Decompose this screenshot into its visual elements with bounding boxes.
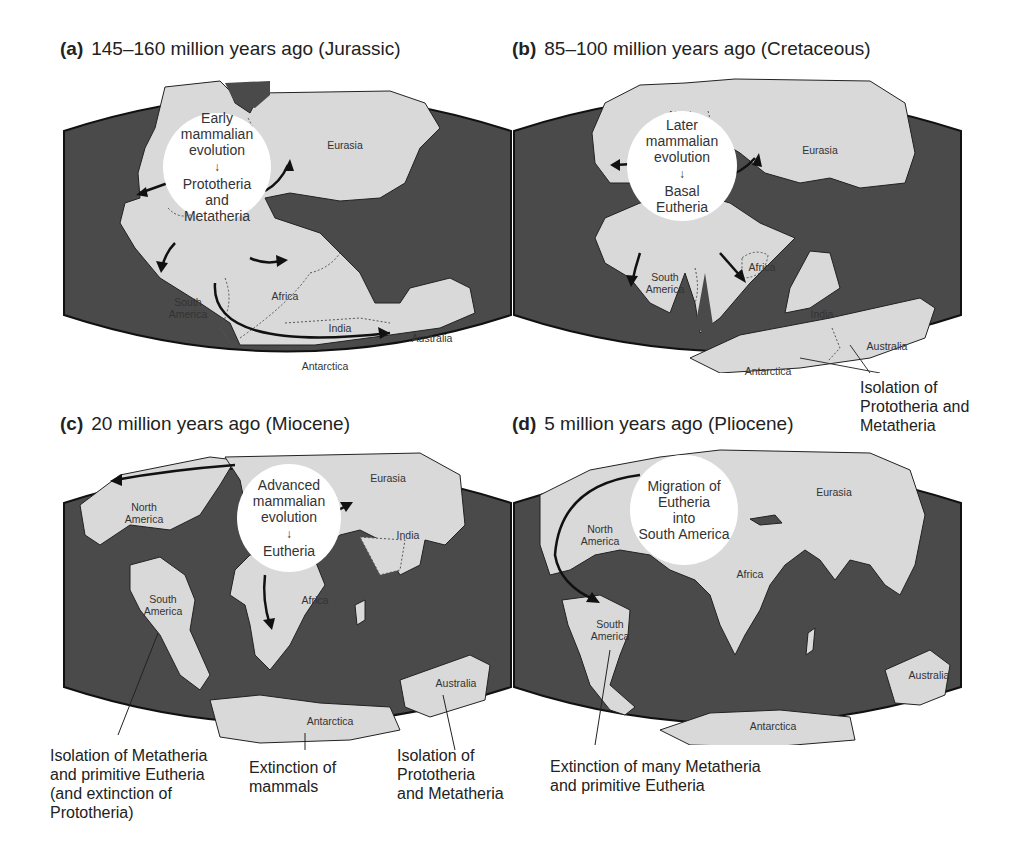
callout-line: Eutheria (263, 543, 315, 559)
panel-b-title: (b)85–100 million years ago (Cretaceous) (512, 38, 871, 60)
panel-d-annotation: Extinction of many Metatheria and primit… (550, 757, 761, 795)
panel-d-map-graphic (510, 445, 965, 745)
label-antarctica: Antarctica (302, 360, 349, 372)
label-line: South (169, 296, 208, 308)
label-antarctica: Antarctica (750, 720, 797, 732)
label-australia: Australia (436, 677, 477, 689)
label-south-america: SouthAmerica (591, 618, 630, 642)
callout-line: Basal (664, 183, 699, 199)
panel-d-letter: (d) (512, 413, 536, 434)
annotation-line: Extinction of many Metatheria (550, 757, 761, 776)
panel-c-title-text: 20 million years ago (Miocene) (91, 413, 350, 434)
annotation-line: Prototheria) (50, 803, 207, 822)
panel-a-callout: Early mammalian evolution ↓ Prototheria … (163, 113, 271, 221)
label-line: South (591, 618, 630, 630)
panel-d-title-text: 5 million years ago (Pliocene) (544, 413, 793, 434)
panel-b-title-text: 85–100 million years ago (Cretaceous) (544, 38, 870, 59)
callout-line: Later (666, 117, 698, 133)
panel-b-callout: Later mammalian evolution ↓ Basal Euther… (627, 111, 737, 221)
label-north-america: NorthAmerica (581, 523, 620, 547)
label-india: India (811, 308, 834, 320)
callout-line: Advanced (258, 477, 320, 493)
label-north-america: NorthAmerica (125, 501, 164, 525)
annotation-line: Isolation of (397, 746, 504, 765)
label-australia: Australia (867, 340, 908, 352)
label-line: South (646, 271, 685, 283)
panel-a-letter: (a) (60, 38, 83, 59)
annotation-line: Prototheria and (860, 397, 969, 416)
callout-line: Metatheria (184, 208, 250, 224)
callout-line: mammalian (181, 126, 253, 142)
callout-line: evolution (261, 509, 317, 525)
callout-line: and (205, 192, 228, 208)
callout-line: Prototheria (183, 176, 251, 192)
label-line: North (125, 501, 164, 513)
label-africa: Africa (749, 261, 776, 273)
callout-line: evolution (654, 149, 710, 165)
annotation-line: and Metatheria (397, 784, 504, 803)
label-line: South (144, 593, 183, 605)
callout-line: into (673, 510, 696, 526)
callout-line: evolution (189, 142, 245, 158)
panel-a-map: NorthAmerica Eurasia SouthAmerica Africa… (60, 73, 515, 373)
panel-b-map: NorthAmerica Eurasia SouthAmerica Africa… (510, 73, 965, 373)
callout-line: mammalian (646, 133, 718, 149)
label-eurasia: Eurasia (816, 486, 852, 498)
panel-d-map: NorthAmerica Eurasia Africa SouthAmerica… (510, 445, 965, 745)
panel-c-map: NorthAmerica Eurasia India SouthAmerica … (60, 445, 515, 745)
label-india: India (329, 322, 352, 334)
panel-c-title: (c)20 million years ago (Miocene) (60, 413, 350, 435)
callout-line: South America (638, 526, 729, 542)
annotation-line: (and extinction of (50, 784, 207, 803)
label-eurasia: Eurasia (327, 139, 363, 151)
annotation-line: and primitive Eutheria (550, 776, 761, 795)
panel-b-annotation: Isolation of Prototheria and Metatheria (860, 378, 969, 435)
panel-a-map-graphic (60, 73, 515, 373)
annotation-line: Isolation of Metatheria (50, 746, 207, 765)
panel-c-callout: Advanced mammalian evolution ↓ Eutheria (237, 464, 341, 572)
down-arrow-icon: ↓ (679, 167, 685, 181)
panel-b-map-graphic (510, 73, 965, 373)
panel-d-callout: Migration of Eutheria into South America (630, 455, 738, 565)
down-arrow-icon: ↓ (286, 527, 292, 541)
annotation-line: and primitive Eutheria (50, 765, 207, 784)
label-line: America (646, 283, 685, 295)
callout-line: Migration of (647, 478, 720, 494)
annotation-line: Isolation of (860, 378, 969, 397)
label-africa: Africa (272, 290, 299, 302)
label-south-america: SouthAmerica (144, 593, 183, 617)
label-eurasia: Eurasia (802, 144, 838, 156)
label-africa: Africa (737, 568, 764, 580)
callout-line: Eutheria (656, 199, 708, 215)
panel-c-annotation-3: Isolation of Prototheria and Metatheria (397, 746, 504, 803)
label-india: India (397, 529, 420, 541)
label-line: America (144, 605, 183, 617)
label-eurasia: Eurasia (370, 472, 406, 484)
callout-line: mammalian (253, 493, 325, 509)
annotation-line: Metatheria (860, 416, 969, 435)
label-line: America (169, 308, 208, 320)
label-australia: Australia (909, 669, 950, 681)
panel-d-title: (d)5 million years ago (Pliocene) (512, 413, 794, 435)
panel-a-title: (a)145–160 million years ago (Jurassic) (60, 38, 401, 60)
label-line: America (591, 630, 630, 642)
panel-c-annotation-2: Extinction of mammals (249, 758, 336, 796)
callout-line: Early (201, 110, 233, 126)
label-antarctica: Antarctica (745, 365, 792, 377)
label-south-america: SouthAmerica (169, 296, 208, 320)
label-south-america: SouthAmerica (646, 271, 685, 295)
label-line: America (581, 535, 620, 547)
annotation-line: mammals (249, 777, 336, 796)
panel-b-letter: (b) (512, 38, 536, 59)
annotation-line: Extinction of (249, 758, 336, 777)
panel-c-letter: (c) (60, 413, 83, 434)
label-line: North (581, 523, 620, 535)
label-australia: Australia (412, 332, 453, 344)
label-africa: Africa (302, 594, 329, 606)
panel-c-annotation-1: Isolation of Metatheria and primitive Eu… (50, 746, 207, 822)
label-antarctica: Antarctica (307, 715, 354, 727)
down-arrow-icon: ↓ (214, 160, 220, 174)
annotation-line: Prototheria (397, 765, 504, 784)
callout-line: Eutheria (658, 494, 710, 510)
label-line: America (125, 513, 164, 525)
